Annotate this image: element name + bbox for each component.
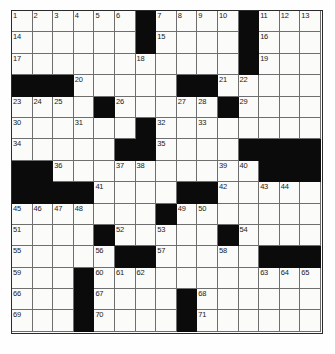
grid-cell-open[interactable]: 16 (259, 32, 280, 53)
grid-cell-open[interactable]: 12 (280, 11, 301, 32)
grid-cell-open[interactable]: 45 (12, 204, 33, 225)
grid-cell-open[interactable] (74, 161, 95, 182)
grid-cell-open[interactable]: 1 (12, 11, 33, 32)
grid-cell-open[interactable] (280, 204, 301, 225)
grid-cell-open[interactable] (74, 139, 95, 160)
grid-cell-open[interactable] (259, 225, 280, 246)
grid-cell-open[interactable] (115, 204, 136, 225)
grid-cell-open[interactable] (218, 118, 239, 139)
grid-cell-open[interactable]: 17 (12, 54, 33, 75)
grid-cell-open[interactable] (300, 54, 321, 75)
grid-cell-open[interactable] (300, 32, 321, 53)
grid-cell-open[interactable]: 32 (156, 118, 177, 139)
grid-cell-open[interactable] (115, 310, 136, 331)
grid-cell-open[interactable] (33, 289, 54, 310)
grid-cell-open[interactable]: 25 (53, 97, 74, 118)
grid-cell-open[interactable]: 67 (94, 289, 115, 310)
grid-cell-open[interactable] (33, 246, 54, 267)
grid-cell-open[interactable] (33, 54, 54, 75)
grid-cell-open[interactable]: 64 (280, 268, 301, 289)
grid-cell-open[interactable]: 50 (197, 204, 218, 225)
grid-cell-open[interactable]: 54 (239, 225, 260, 246)
grid-cell-open[interactable] (94, 161, 115, 182)
grid-cell-open[interactable]: 9 (197, 11, 218, 32)
grid-cell-open[interactable] (156, 310, 177, 331)
grid-cell-open[interactable] (136, 225, 157, 246)
grid-cell-open[interactable] (197, 54, 218, 75)
grid-cell-open[interactable]: 51 (12, 225, 33, 246)
grid-cell-open[interactable]: 61 (115, 268, 136, 289)
grid-cell-open[interactable] (197, 161, 218, 182)
grid-cell-open[interactable] (53, 246, 74, 267)
grid-cell-open[interactable]: 35 (156, 139, 177, 160)
grid-cell-open[interactable] (33, 32, 54, 53)
grid-cell-open[interactable] (53, 310, 74, 331)
grid-cell-open[interactable] (33, 118, 54, 139)
grid-cell-open[interactable] (239, 204, 260, 225)
grid-cell-open[interactable]: 33 (197, 118, 218, 139)
grid-cell-open[interactable] (53, 32, 74, 53)
grid-cell-open[interactable] (156, 161, 177, 182)
grid-cell-open[interactable]: 10 (218, 11, 239, 32)
grid-cell-open[interactable] (115, 32, 136, 53)
grid-cell-open[interactable] (239, 246, 260, 267)
grid-cell-open[interactable] (136, 75, 157, 96)
crossword-grid[interactable]: 1234567891011121314151617181920212223242… (11, 10, 321, 332)
grid-cell-open[interactable]: 58 (218, 246, 239, 267)
grid-cell-open[interactable] (115, 75, 136, 96)
grid-cell-open[interactable] (74, 246, 95, 267)
grid-cell-open[interactable]: 4 (74, 11, 95, 32)
grid-cell-open[interactable]: 19 (259, 54, 280, 75)
grid-cell-open[interactable]: 65 (300, 268, 321, 289)
grid-cell-open[interactable]: 22 (239, 75, 260, 96)
grid-cell-open[interactable] (33, 268, 54, 289)
grid-cell-open[interactable]: 60 (94, 268, 115, 289)
grid-cell-open[interactable] (33, 310, 54, 331)
grid-cell-open[interactable]: 52 (115, 225, 136, 246)
grid-cell-open[interactable] (300, 75, 321, 96)
grid-cell-open[interactable] (156, 75, 177, 96)
grid-cell-open[interactable] (94, 32, 115, 53)
grid-cell-open[interactable] (197, 225, 218, 246)
grid-cell-open[interactable] (259, 97, 280, 118)
grid-cell-open[interactable] (259, 75, 280, 96)
grid-cell-open[interactable] (197, 32, 218, 53)
grid-cell-open[interactable]: 6 (115, 11, 136, 32)
grid-cell-open[interactable] (33, 139, 54, 160)
grid-cell-open[interactable] (156, 289, 177, 310)
grid-cell-open[interactable] (177, 118, 198, 139)
grid-cell-open[interactable]: 44 (280, 182, 301, 203)
grid-cell-open[interactable] (53, 54, 74, 75)
grid-cell-open[interactable] (177, 246, 198, 267)
grid-cell-open[interactable] (197, 246, 218, 267)
grid-cell-open[interactable] (197, 139, 218, 160)
grid-cell-open[interactable]: 40 (239, 161, 260, 182)
grid-cell-open[interactable]: 42 (218, 182, 239, 203)
grid-cell-open[interactable] (115, 54, 136, 75)
grid-cell-open[interactable] (53, 268, 74, 289)
grid-cell-open[interactable]: 38 (136, 161, 157, 182)
grid-cell-open[interactable]: 5 (94, 11, 115, 32)
grid-cell-open[interactable] (280, 97, 301, 118)
grid-cell-open[interactable] (74, 54, 95, 75)
grid-cell-open[interactable] (53, 139, 74, 160)
grid-cell-open[interactable] (115, 182, 136, 203)
grid-cell-open[interactable]: 15 (156, 32, 177, 53)
grid-cell-open[interactable]: 2 (33, 11, 54, 32)
grid-cell-open[interactable]: 56 (94, 246, 115, 267)
grid-cell-open[interactable] (300, 97, 321, 118)
grid-cell-open[interactable] (156, 97, 177, 118)
grid-cell-open[interactable]: 11 (259, 11, 280, 32)
grid-cell-open[interactable]: 18 (136, 54, 157, 75)
grid-cell-open[interactable] (259, 310, 280, 331)
grid-cell-open[interactable] (156, 54, 177, 75)
grid-cell-open[interactable]: 57 (156, 246, 177, 267)
grid-cell-open[interactable]: 7 (156, 11, 177, 32)
grid-cell-open[interactable] (115, 118, 136, 139)
grid-cell-open[interactable] (239, 289, 260, 310)
grid-cell-open[interactable] (218, 204, 239, 225)
grid-cell-open[interactable] (280, 225, 301, 246)
grid-cell-open[interactable] (94, 54, 115, 75)
grid-cell-open[interactable] (74, 32, 95, 53)
grid-cell-open[interactable] (156, 268, 177, 289)
